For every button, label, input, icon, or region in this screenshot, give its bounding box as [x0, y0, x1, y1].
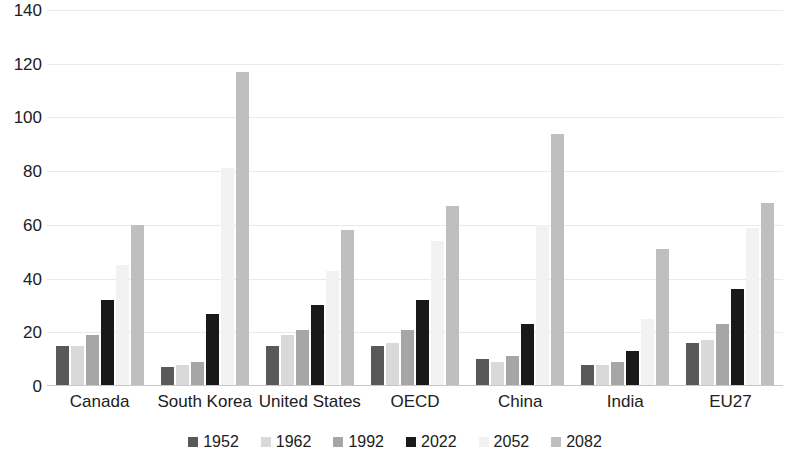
- bar-china-1952[interactable]: [476, 359, 489, 386]
- y-axis-tick-label: 40: [23, 270, 42, 287]
- bar-united-states-2052[interactable]: [326, 271, 339, 386]
- x-axis-label-south-korea: South Korea: [152, 392, 257, 418]
- legend-item-1962[interactable]: 1962: [261, 434, 312, 450]
- y-axis-tick-label: 20: [23, 324, 42, 341]
- bar-eu27-1952[interactable]: [686, 343, 699, 386]
- y-axis-tick-label: 80: [23, 163, 42, 180]
- bar-india-2052[interactable]: [641, 319, 654, 386]
- bar-group: [468, 10, 573, 386]
- y-axis-tick-label: 140: [14, 2, 42, 19]
- legend-label: 2022: [421, 434, 457, 450]
- bar-oecd-1952[interactable]: [371, 346, 384, 386]
- bar-group: [47, 10, 152, 386]
- bar-group: [152, 10, 257, 386]
- legend-swatch-icon: [551, 437, 561, 447]
- x-axis-label-india: India: [573, 392, 678, 418]
- bar-canada-2052[interactable]: [116, 265, 129, 386]
- legend-swatch-icon: [406, 437, 416, 447]
- legend-swatch-icon: [188, 437, 198, 447]
- bar-group: [573, 10, 678, 386]
- bar-united-states-1992[interactable]: [296, 330, 309, 386]
- bar-canada-1952[interactable]: [56, 346, 69, 386]
- x-axis-line: [47, 385, 783, 386]
- x-axis-labels: CanadaSouth KoreaUnited StatesOECDChinaI…: [47, 392, 783, 418]
- bar-chart: 020406080100120140 CanadaSouth KoreaUnit…: [0, 0, 790, 458]
- legend-item-1992[interactable]: 1992: [333, 434, 384, 450]
- bar-eu27-1992[interactable]: [716, 324, 729, 386]
- legend-label: 1992: [348, 434, 384, 450]
- bar-group: [678, 10, 783, 386]
- bar-china-1962[interactable]: [491, 362, 504, 386]
- bar-china-2052[interactable]: [536, 225, 549, 386]
- bar-united-states-1962[interactable]: [281, 335, 294, 386]
- legend-item-1952[interactable]: 1952: [188, 434, 239, 450]
- chart-legend: 195219621992202220522082: [0, 430, 790, 454]
- bar-groups: [47, 10, 783, 386]
- bar-south-korea-2082[interactable]: [236, 72, 249, 386]
- bar-south-korea-1962[interactable]: [176, 365, 189, 386]
- bar-south-korea-2052[interactable]: [221, 168, 234, 386]
- bar-china-1992[interactable]: [506, 356, 519, 386]
- bar-eu27-2052[interactable]: [746, 228, 759, 386]
- bar-group: [362, 10, 467, 386]
- legend-label: 1952: [203, 434, 239, 450]
- x-axis-label-united-states: United States: [257, 392, 362, 418]
- legend-label: 2082: [566, 434, 602, 450]
- legend-swatch-icon: [479, 437, 489, 447]
- bar-oecd-1992[interactable]: [401, 330, 414, 386]
- bar-oecd-2082[interactable]: [446, 206, 459, 386]
- y-axis-tick-label: 0: [33, 378, 42, 395]
- legend-item-2052[interactable]: 2052: [479, 434, 530, 450]
- bar-oecd-1962[interactable]: [386, 343, 399, 386]
- bar-eu27-1962[interactable]: [701, 340, 714, 386]
- bar-china-2082[interactable]: [551, 134, 564, 386]
- legend-swatch-icon: [261, 437, 271, 447]
- y-axis-tick-label: 100: [14, 109, 42, 126]
- bar-india-1992[interactable]: [611, 362, 624, 386]
- bar-india-2082[interactable]: [656, 249, 669, 386]
- bar-group: [257, 10, 362, 386]
- x-axis-label-china: China: [468, 392, 573, 418]
- bar-eu27-2022[interactable]: [731, 289, 744, 386]
- bar-south-korea-2022[interactable]: [206, 314, 219, 387]
- y-axis-tick-label: 60: [23, 216, 42, 233]
- legend-item-2082[interactable]: 2082: [551, 434, 602, 450]
- bar-canada-1962[interactable]: [71, 346, 84, 386]
- bar-south-korea-1952[interactable]: [161, 367, 174, 386]
- bar-united-states-1952[interactable]: [266, 346, 279, 386]
- bar-canada-2022[interactable]: [101, 300, 114, 386]
- bar-canada-1992[interactable]: [86, 335, 99, 386]
- legend-swatch-icon: [333, 437, 343, 447]
- bar-india-1962[interactable]: [596, 365, 609, 386]
- bar-china-2022[interactable]: [521, 324, 534, 386]
- bar-india-2022[interactable]: [626, 351, 639, 386]
- legend-label: 1962: [276, 434, 312, 450]
- bar-oecd-2022[interactable]: [416, 300, 429, 386]
- x-axis-label-canada: Canada: [47, 392, 152, 418]
- plot-area: [47, 10, 783, 386]
- legend-item-2022[interactable]: 2022: [406, 434, 457, 450]
- y-axis-tick-label: 120: [14, 55, 42, 72]
- bar-oecd-2052[interactable]: [431, 241, 444, 386]
- y-axis: 020406080100120140: [0, 10, 42, 386]
- bar-india-1952[interactable]: [581, 365, 594, 386]
- bar-canada-2082[interactable]: [131, 225, 144, 386]
- legend-label: 2052: [494, 434, 530, 450]
- bar-south-korea-1992[interactable]: [191, 362, 204, 386]
- bar-eu27-2082[interactable]: [761, 203, 774, 386]
- bar-united-states-2022[interactable]: [311, 305, 324, 386]
- x-axis-label-oecd: OECD: [362, 392, 467, 418]
- bar-united-states-2082[interactable]: [341, 230, 354, 386]
- x-axis-label-eu27: EU27: [678, 392, 783, 418]
